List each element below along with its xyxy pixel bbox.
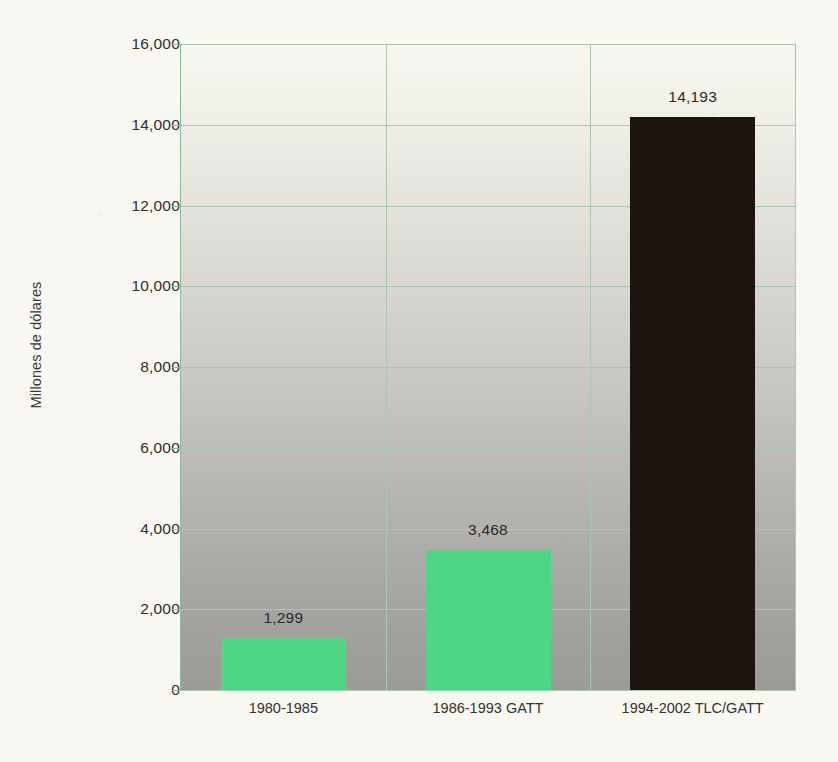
- y-axis-tick-mark: [172, 448, 181, 449]
- x-axis-category-label: 1986-1993 GATT: [378, 700, 598, 716]
- plot-right-border: [795, 44, 796, 691]
- y-axis-title-text: Millones de dólares: [28, 282, 44, 409]
- plot-area: [181, 44, 795, 690]
- bar-value-label: 3,468: [408, 521, 568, 539]
- y-axis-tick-label: 14,000: [70, 116, 180, 134]
- y-axis-tick-label: 6,000: [70, 439, 180, 457]
- y-axis-tick-mark: [172, 690, 181, 691]
- y-axis-tick-mark: [172, 44, 181, 45]
- y-axis-tick-mark: [172, 529, 181, 530]
- x-axis-line: [181, 690, 795, 691]
- bar-value-label: 14,193: [613, 88, 773, 106]
- y-axis-tick-label: 8,000: [70, 358, 180, 376]
- y-axis-tick-label: 4,000: [70, 520, 180, 538]
- gridline: [181, 44, 795, 45]
- y-axis-tick-label: 0: [70, 681, 180, 699]
- y-axis-tick-mark: [172, 125, 181, 126]
- bar-chart-figure: Millones de dólares 02,0004,0006,0008,00…: [0, 0, 838, 762]
- y-axis-tick-label: 12,000: [70, 197, 180, 215]
- bar[interactable]: [426, 550, 551, 690]
- y-axis-tick-mark: [172, 609, 181, 610]
- category-separator: [590, 44, 591, 690]
- y-axis-tick-mark: [172, 367, 181, 368]
- x-axis-category-label: 1994-2002 TLC/GATT: [583, 700, 803, 716]
- y-axis-tick-label: 16,000: [70, 35, 180, 53]
- bar[interactable]: [630, 117, 755, 690]
- y-axis-tick-mark: [172, 286, 181, 287]
- y-axis-title: Millones de dólares: [16, 0, 56, 690]
- bar[interactable]: [221, 638, 346, 690]
- y-axis-tick-label: 2,000: [70, 600, 180, 618]
- y-axis-tick-mark: [172, 206, 181, 207]
- category-separator: [386, 44, 387, 690]
- bar-value-label: 1,299: [203, 609, 363, 627]
- x-axis-category-label: 1980-1985: [173, 700, 393, 716]
- y-axis-tick-label: 10,000: [70, 277, 180, 295]
- y-axis-ticks: 02,0004,0006,0008,00010,00012,00014,0001…: [52, 0, 180, 762]
